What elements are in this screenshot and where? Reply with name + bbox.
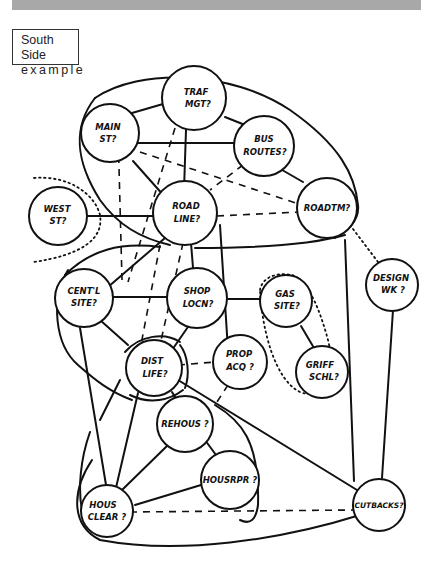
node-west-st: WEST ST? bbox=[29, 187, 87, 245]
node-centl-site: CENT'L SITE? bbox=[55, 269, 113, 327]
node-cutbacks: CUTBACKS? bbox=[353, 479, 405, 531]
svg-text:SITE?: SITE? bbox=[274, 301, 300, 311]
node-roadtm: ROADTM? bbox=[297, 178, 357, 238]
node-prop-acq: PROP ACQ ? bbox=[213, 335, 267, 389]
svg-text:ROADTM?: ROADTM? bbox=[304, 203, 351, 213]
node-bus-routes: BUS ROUTES? bbox=[234, 116, 294, 176]
svg-text:SITE?: SITE? bbox=[71, 298, 97, 308]
svg-text:WK ?: WK ? bbox=[381, 285, 405, 295]
svg-text:WEST: WEST bbox=[43, 204, 71, 214]
svg-text:TRAF: TRAF bbox=[184, 87, 209, 97]
svg-text:ROAD: ROAD bbox=[172, 201, 199, 211]
node-gas-site: GAS SITE? bbox=[260, 275, 312, 327]
network-diagram: TRAF MGT? MAIN ST? BUS ROUTES? WEST ST? … bbox=[0, 0, 442, 571]
node-griff-schl: GRIFF SCHL? bbox=[296, 346, 348, 398]
roadtm-design-link bbox=[350, 225, 378, 262]
svg-text:GAS: GAS bbox=[275, 289, 295, 299]
node-housrpr: HOUSRPR ? bbox=[201, 451, 259, 509]
node-hous-clear: HOUS CLEAR ? bbox=[81, 485, 133, 537]
svg-text:ACQ ?: ACQ ? bbox=[225, 362, 254, 372]
svg-text:GRIFF: GRIFF bbox=[306, 360, 334, 370]
svg-text:REHOUS ?: REHOUS ? bbox=[161, 419, 209, 429]
node-rehous: REHOUS ? bbox=[157, 396, 213, 452]
node-traf-mgt: TRAF MGT? bbox=[162, 66, 226, 130]
svg-text:CENT'L: CENT'L bbox=[68, 286, 101, 296]
svg-text:BUS: BUS bbox=[254, 134, 274, 144]
node-shop-locn: SHOP LOCN? bbox=[167, 268, 227, 328]
svg-text:CLEAR ?: CLEAR ? bbox=[88, 512, 127, 522]
node-dist-life: DIST LIFE? bbox=[126, 340, 182, 396]
node-main-st: MAIN ST? bbox=[81, 104, 139, 162]
svg-text:HOUS: HOUS bbox=[89, 500, 116, 510]
svg-text:HOUSRPR ?: HOUSRPR ? bbox=[203, 475, 258, 485]
node-road-line: ROAD LINE? bbox=[153, 181, 217, 245]
svg-text:ROUTES?: ROUTES? bbox=[243, 147, 286, 157]
svg-text:SCHL?: SCHL? bbox=[309, 372, 339, 382]
svg-text:LOCN?: LOCN? bbox=[183, 299, 214, 309]
svg-text:MAIN: MAIN bbox=[95, 122, 120, 132]
node-design-wk: DESIGN WK ? bbox=[366, 259, 418, 311]
svg-text:ST?: ST? bbox=[50, 216, 67, 226]
svg-text:CUTBACKS?: CUTBACKS? bbox=[354, 501, 404, 510]
svg-text:ST?: ST? bbox=[100, 134, 117, 144]
solid-edges bbox=[80, 104, 393, 505]
svg-text:SHOP: SHOP bbox=[184, 286, 211, 296]
svg-text:LINE?: LINE? bbox=[174, 214, 200, 224]
svg-text:PROP: PROP bbox=[226, 349, 253, 359]
svg-text:DESIGN: DESIGN bbox=[373, 273, 409, 283]
svg-text:LIFE?: LIFE? bbox=[142, 369, 167, 379]
svg-text:MGT?: MGT? bbox=[185, 99, 211, 109]
svg-text:DIST: DIST bbox=[141, 356, 164, 366]
